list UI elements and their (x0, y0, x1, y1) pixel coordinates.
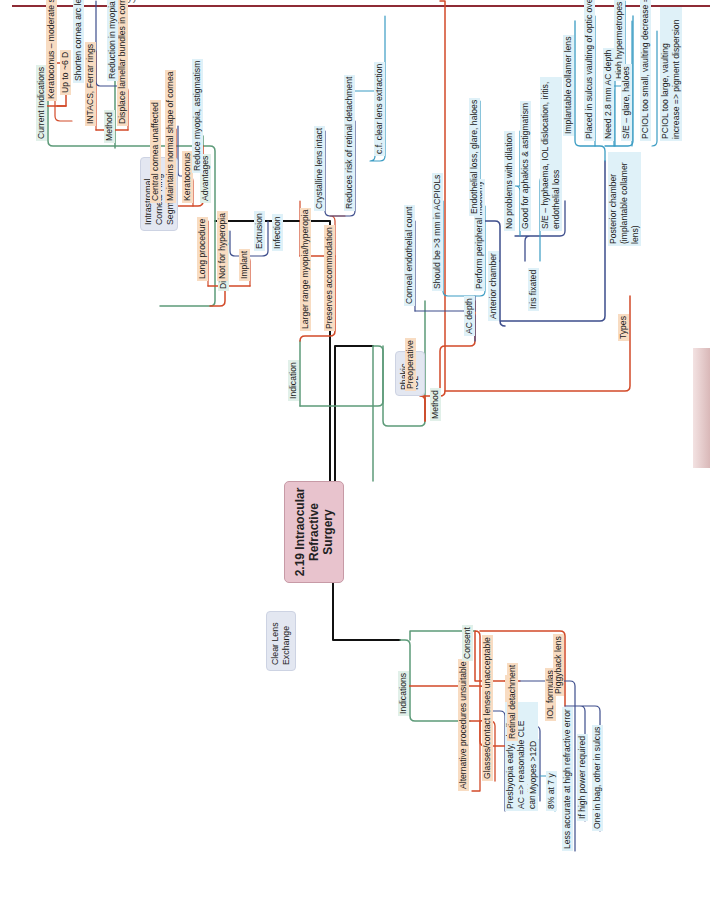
phakic-iris-no-problems: No problems with dilation (504, 131, 515, 231)
cle-ind-glasses: Glasses/contact lenses unacceptable (482, 635, 493, 781)
phakic-ind-cf-cle: c.f. clear lens extraction (374, 62, 385, 156)
icrs-ci-keratoconus: Keratoconus – moderate severity <53 D (46, 0, 57, 101)
phakic-posterior-chamber: Posterior chamber (implantable collamer … (608, 152, 641, 246)
phakic-pre-ac-depth: AC depth (464, 296, 475, 336)
cle-retinal-8pct: 8% at 7 y (546, 771, 557, 811)
phakic-ac-endothelial-loss: Endothelial loss, glare, haloes (469, 98, 480, 216)
cle-consent-retinal: Retinal detachment (507, 663, 518, 741)
cle-indications: Indications (398, 671, 409, 716)
cle-iol-less-accurate: Less accurate at high refractive error (562, 707, 573, 851)
cle-piggy-one-in-bag: One in bag, other in sulcus (592, 725, 603, 831)
phakic-pc-too-large: PCIOL too large, vaulting increase => pi… (660, 7, 682, 141)
icrs-dis-infection: Infection (272, 215, 283, 252)
cle-consent-piggyback: Piggyback lens (553, 634, 564, 696)
phakic-pc-icl: Implantable collamer lens (563, 35, 574, 136)
mind-map-canvas: 2.19 Intraocular Refractive Surgery Intr… (0, 0, 710, 921)
phakic-pc-need-ac: Need 2.8 mm AC depth (603, 48, 614, 141)
phakic-pc-too-small: PCIOL too small, vaulting decrease => ca… (640, 0, 651, 141)
central-topic[interactable]: 2.19 Intraocular Refractive Surgery (284, 481, 344, 583)
icrs-method: Method (104, 110, 115, 143)
phakic-iris-se: S/E – hyphaema, IOL dislocation, iritis,… (540, 77, 562, 231)
central-title-line3: Surgery (321, 488, 335, 577)
icrs-method-displace: Displace lamellar bundles in cornea (117, 0, 128, 126)
phakic-ind-larger-range: Larger range myopia/hyperopia (300, 208, 311, 331)
icrs-adv-maintains: Maintains normal shape of cornea (165, 70, 176, 203)
icrs-dis-hyperopia: Not for hyperopia (217, 211, 228, 281)
cle-ind-alternative: Alternative procedures unsuitable (458, 659, 469, 791)
phakic-pc-se: S/E – glare, haloes (621, 64, 632, 141)
cle-consent: Consent (462, 625, 473, 661)
phakic-pre-endothelial: Corneal endothelial count (404, 205, 415, 306)
phakic-method: Method (430, 388, 441, 421)
phakic-ind-reduces-rd: Reduces risk of retinal detachment (344, 75, 355, 211)
phakic-iris-good-for: Good for aphakics & astigmatism (520, 101, 531, 231)
icrs-method-shorten: Shorten cornea arc length (73, 0, 84, 83)
phakic-iris-fixated: Iris fixated (528, 268, 539, 311)
icrs-adv-central: Central cornea unaffected (150, 100, 161, 203)
node-cle-label: Clear Lens Exchange (270, 617, 292, 665)
icrs-dis-extrusion: Extrusion (254, 211, 265, 251)
cle-retinal-myopes: Myopes >12D (528, 739, 539, 796)
phakic-types: Types (618, 314, 629, 341)
icrs-dis-implant: Implant (239, 249, 250, 281)
icrs-ci-up-to-6d: Up to ~6 D (60, 50, 71, 95)
phakic-ind-preserves: Preserves accommodation (324, 225, 335, 331)
icrs-dis-long: Long procedure (197, 217, 208, 281)
icrs-method-intacs: INTACS, Ferrar rings (85, 42, 96, 126)
icrs-method-reduction: Reduction in myopia (107, 0, 118, 81)
central-title-line2: Refractive (307, 488, 321, 577)
central-title-line1: 2.19 Intraocular (293, 488, 307, 577)
node-clear-lens-exchange[interactable]: Clear Lens Exchange (266, 611, 296, 671)
phakic-pc-placed: Placed in sulcus vaulting of optic over … (584, 0, 595, 141)
phakic-indication: Indication (288, 360, 299, 401)
icrs-adv-reduce: Reduce myopia, astigmatism (192, 59, 203, 173)
phakic-preoperative: Preoperative (405, 338, 416, 391)
phakic-anterior-chamber: Anterior chamber (488, 251, 499, 321)
phakic-pre-should-be: Should be >3 mm in ACPIOLs (432, 173, 443, 291)
cle-piggy-high-power: If high power required (577, 734, 588, 821)
phakic-ind-crystalline: Crystalline lens intact (314, 126, 325, 211)
